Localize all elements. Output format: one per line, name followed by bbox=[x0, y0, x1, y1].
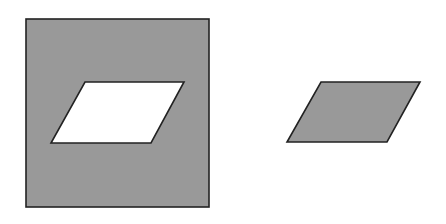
separate-parallelogram bbox=[287, 82, 420, 142]
diagram-canvas bbox=[0, 0, 446, 224]
